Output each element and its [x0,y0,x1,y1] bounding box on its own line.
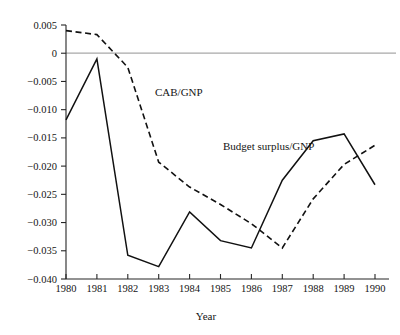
line-chart: 0.0050−0.005−0.010−0.015−0.020−0.025−0.0… [0,0,400,335]
x-tick-label: 1987 [272,283,293,294]
x-tick-label: 1989 [334,283,355,294]
series-line-cab-gnp [66,31,375,248]
x-tick-label: 1982 [117,283,138,294]
y-tick-labels: 0.0050−0.005−0.010−0.015−0.020−0.025−0.0… [27,20,57,285]
y-tick-label: 0.005 [33,20,57,31]
series-line-budget-surplus-gnp [66,59,375,267]
y-tick-label: −0.005 [27,76,57,87]
x-axis-title: Year [196,310,217,322]
series-label-cab-gnp: CAB/GNP [155,86,203,98]
x-tick-label: 1981 [86,283,107,294]
y-tick-label: 0 [52,48,57,59]
x-tick-label: 1986 [241,283,262,294]
y-tick-label: −0.010 [27,104,57,115]
y-tick-label: −0.030 [27,217,57,228]
y-tick-label: −0.025 [27,189,57,200]
x-axis [66,274,389,279]
y-tick-label: −0.040 [27,274,57,285]
x-tick-label: 1985 [210,283,231,294]
chart-container: 0.0050−0.005−0.010−0.015−0.020−0.025−0.0… [0,0,400,335]
y-tick-label: −0.020 [27,161,57,172]
y-tick-label: −0.015 [27,132,57,143]
x-tick-label: 1988 [303,283,324,294]
x-tick-label: 1980 [56,283,77,294]
x-tick-labels: 1980198119821983198419851986198719881989… [56,283,386,294]
x-tick-label: 1990 [365,283,386,294]
data-series [66,31,375,267]
series-label-budget-surplus-gnp: Budget surplus/GNP [223,140,314,152]
x-tick-label: 1984 [179,283,201,294]
x-tick-label: 1983 [148,283,169,294]
y-tick-label: −0.035 [27,245,57,256]
y-axis [61,25,66,279]
